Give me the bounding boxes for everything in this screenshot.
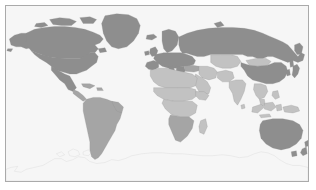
world-map[interactable] bbox=[6, 6, 308, 181]
world-map-figure bbox=[0, 0, 316, 190]
map-frame bbox=[5, 5, 309, 182]
